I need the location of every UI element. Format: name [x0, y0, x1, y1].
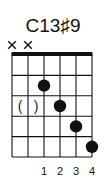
- finger-number-string-3: 1: [41, 165, 47, 177]
- finger-dot-string-4: [54, 100, 66, 112]
- chord-name: C13♯9: [26, 15, 81, 36]
- finger-number-string-6: 4: [89, 165, 95, 177]
- finger-dot-string-6: [86, 141, 98, 153]
- fretboard-grid: [12, 52, 93, 157]
- finger-dot-string-5: [70, 120, 82, 132]
- close-paren: ): [34, 98, 39, 114]
- muted-string-markers: [8, 41, 32, 49]
- chord-diagram: C13♯9 () 1234: [0, 0, 107, 183]
- open-paren: (: [18, 98, 23, 114]
- finger-number-string-5: 3: [73, 165, 79, 177]
- finger-numbers: 1234: [41, 165, 95, 177]
- mute-x-icon: [8, 41, 16, 49]
- mute-x-icon: [24, 41, 32, 49]
- finger-dot-string-3: [38, 79, 50, 91]
- nut: [12, 52, 93, 56]
- finger-number-string-4: 2: [57, 165, 63, 177]
